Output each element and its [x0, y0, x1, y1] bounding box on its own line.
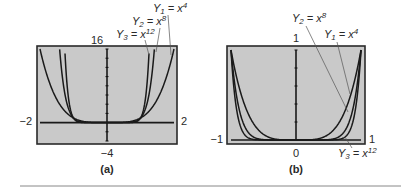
panel-b: 1 0 −1 1 (b) Y2 = x8 Y1 = x4 Y3 = x12	[210, 11, 377, 175]
panel-b-legend-y2: Y2 = x8	[292, 11, 327, 26]
panel-a-xmin-label: −2	[19, 115, 32, 127]
panel-b-ymin-label: 0	[293, 147, 299, 159]
panel-a-legend-y1: Y1 = x4	[153, 1, 188, 16]
panel-a-ymax-label: 16	[91, 34, 103, 46]
panel-a: 16 −4 −2 2 (a) Y1 = x4 Y2 = x8 Y3 = x12	[19, 1, 187, 175]
panel-b-xmax-label: 1	[369, 133, 375, 145]
panel-b-xmin-label: −1	[210, 133, 223, 145]
panel-a-caption: (a)	[100, 163, 114, 175]
panel-a-legend-y3: Y3 = x12	[116, 27, 155, 42]
panel-b-caption: (b)	[289, 163, 303, 175]
panel-b-ymax-label: 1	[293, 32, 299, 44]
panel-b-legend-y1: Y1 = x4	[324, 27, 359, 42]
panel-a-xmax-label: 2	[181, 115, 187, 127]
figure: 16 −4 −2 2 (a) Y1 = x4 Y2 = x8 Y3 = x12 …	[0, 0, 401, 194]
panel-a-ymin-label: −4	[101, 147, 114, 159]
panel-b-legend-y3: Y3 = x12	[338, 146, 377, 161]
